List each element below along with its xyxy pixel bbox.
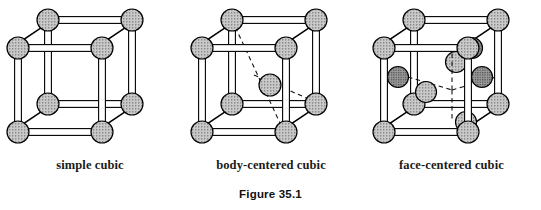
- fcc-atoms-side-faces: [388, 67, 493, 88]
- atom-corner: [191, 121, 213, 143]
- atom-corner: [7, 121, 29, 143]
- atom-corner: [121, 93, 143, 115]
- atom-corner: [37, 9, 59, 31]
- atom-corner: [121, 9, 143, 31]
- sc-atoms-back: [37, 9, 143, 115]
- atom-corner: [305, 93, 327, 115]
- atom-corner: [373, 121, 395, 143]
- atom-corner: [275, 37, 297, 59]
- sc-bonds-back: [16, 17, 136, 130]
- atom-corner: [487, 93, 509, 115]
- sc-atoms-front: [7, 37, 113, 143]
- atom-corner: [457, 121, 479, 143]
- atom-corner: [91, 37, 113, 59]
- atom-corner: [305, 9, 327, 31]
- atom-body-center: [259, 74, 281, 96]
- simple-cubic-diagram: [0, 0, 180, 160]
- figure-container: simple cubic body-centered cubic face-ce…: [0, 0, 541, 210]
- atom-corner: [7, 37, 29, 59]
- atom-face-center: [472, 67, 493, 88]
- label-face-centered-cubic: face-centered cubic: [362, 158, 541, 173]
- bcc-center-atom: [259, 74, 281, 96]
- atom-corner: [91, 121, 113, 143]
- label-body-centered-cubic: body-centered cubic: [180, 158, 362, 173]
- label-simple-cubic: simple cubic: [0, 158, 180, 173]
- atom-face-center: [388, 67, 409, 88]
- bcc-bonds-back: [200, 17, 320, 130]
- fcc-atom-face-front: [416, 82, 437, 103]
- bcc-atoms-front: [191, 37, 297, 143]
- atom-corner: [457, 37, 479, 59]
- atom-face-center: [416, 82, 437, 103]
- structure-labels-row: simple cubic body-centered cubic face-ce…: [0, 158, 541, 178]
- atom-corner: [37, 93, 59, 115]
- atom-corner: [191, 37, 213, 59]
- atom-corner: [275, 121, 297, 143]
- body-centered-cubic-diagram: [180, 0, 362, 160]
- atom-corner: [373, 37, 395, 59]
- atom-corner: [403, 9, 425, 31]
- atom-corner: [221, 9, 243, 31]
- sc-bonds-front: [15, 45, 106, 136]
- bcc-atoms-back: [221, 9, 327, 115]
- face-centered-cubic-diagram: [362, 0, 541, 160]
- atom-corner: [487, 9, 509, 31]
- figure-caption: Figure 35.1: [0, 188, 541, 200]
- atom-corner: [221, 93, 243, 115]
